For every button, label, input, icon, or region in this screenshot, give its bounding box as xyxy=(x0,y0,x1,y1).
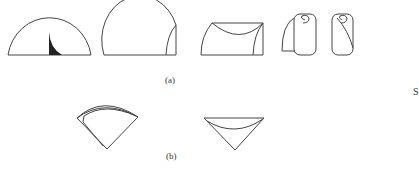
panel-a-label: (a) xyxy=(165,75,175,85)
inverted-triangle-cone xyxy=(204,118,264,150)
semicircle-with-dark-wedge xyxy=(8,18,91,55)
sector-fan-layered xyxy=(77,106,138,149)
rectangle-with-curved-fold xyxy=(201,23,263,55)
rolled-sheet-closed xyxy=(332,14,353,55)
semicircle-with-folded-edge xyxy=(102,0,176,55)
panel-b-label: (b) xyxy=(166,151,177,161)
rolled-sheet-open xyxy=(282,14,316,55)
edge-fragment-text: S xyxy=(413,86,419,97)
diagram-canvas xyxy=(0,0,419,172)
